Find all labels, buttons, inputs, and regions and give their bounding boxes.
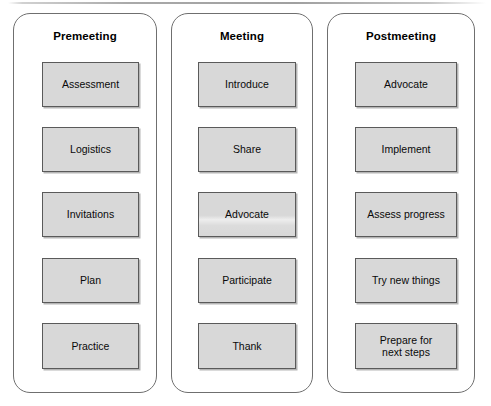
phase-panels-container: Premeeting Assessment Logistics Invitati…: [0, 0, 491, 406]
step-label: Practice: [68, 340, 114, 353]
step-label: Logistics: [66, 143, 115, 156]
step-list-premeeting: Assessment Logistics Invitations Plan Pr…: [14, 62, 156, 378]
step-box[interactable]: Share: [198, 127, 296, 172]
step-box[interactable]: Introduce: [198, 62, 296, 107]
phase-panel-title-meeting: Meeting: [172, 30, 312, 42]
step-label: Implement: [377, 143, 434, 156]
phase-panel-title-premeeting: Premeeting: [14, 30, 156, 42]
step-list-meeting: Introduce Share Advocate Participate Tha…: [172, 62, 312, 378]
step-label: Assess progress: [363, 208, 449, 221]
step-box[interactable]: Prepare fornext steps: [355, 323, 457, 369]
phase-panel-postmeeting: Postmeeting Advocate Implement Assess pr…: [327, 13, 475, 393]
step-label: Share: [229, 143, 265, 156]
step-box[interactable]: Advocate: [355, 62, 457, 107]
phase-panel-premeeting: Premeeting Assessment Logistics Invitati…: [13, 13, 157, 393]
phase-panel-meeting: Meeting Introduce Share Advocate Partici…: [171, 13, 313, 393]
step-label: Assessment: [58, 78, 123, 91]
step-box[interactable]: Advocate: [198, 192, 296, 237]
step-label: Advocate: [380, 78, 432, 91]
step-box[interactable]: Invitations: [42, 192, 139, 237]
step-box[interactable]: Logistics: [42, 127, 139, 172]
meeting-phases-diagram: Premeeting Assessment Logistics Invitati…: [0, 0, 491, 406]
step-label: Plan: [76, 274, 105, 287]
step-label: Participate: [218, 274, 276, 287]
step-box[interactable]: Participate: [198, 258, 296, 303]
step-label: Introduce: [221, 78, 273, 91]
phase-panel-title-postmeeting: Postmeeting: [328, 30, 474, 42]
step-label: Prepare fornext steps: [376, 334, 437, 359]
step-box[interactable]: Assessment: [42, 62, 139, 107]
step-box[interactable]: Try new things: [355, 258, 457, 303]
step-box[interactable]: Thank: [198, 323, 296, 369]
step-box[interactable]: Practice: [42, 323, 139, 369]
step-list-postmeeting: Advocate Implement Assess progress Try n…: [328, 62, 474, 378]
step-label: Invitations: [63, 208, 118, 221]
step-label: Thank: [228, 340, 265, 353]
step-box[interactable]: Implement: [355, 127, 457, 172]
step-label: Try new things: [368, 274, 444, 287]
step-box[interactable]: Plan: [42, 258, 139, 303]
step-label: Advocate: [221, 208, 273, 221]
step-box[interactable]: Assess progress: [355, 192, 457, 237]
